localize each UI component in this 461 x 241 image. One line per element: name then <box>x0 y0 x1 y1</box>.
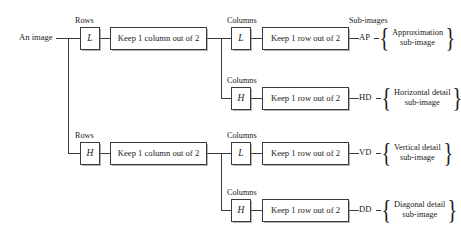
header-columns-dd: Columns <box>227 189 257 197</box>
source-label-an-image: An image <box>19 33 53 42</box>
process-box-keep-row-ap[interactable]: Keep 1 row out of 2 <box>262 27 349 50</box>
process-box-keep-column-top-label: Keep 1 column out of 2 <box>118 34 199 43</box>
header-columns-hd: Columns <box>227 77 257 85</box>
filter-box-columns-vd-label: L <box>238 149 243 159</box>
sub-image-caption-dd-line2: sub-image <box>402 210 437 219</box>
output-code-ap: AP <box>359 33 370 42</box>
sub-image-caption-ap-line2: sub-image <box>400 38 435 47</box>
filter-box-columns-ap[interactable]: L <box>231 27 251 50</box>
output-code-dd: DD <box>359 205 371 214</box>
sub-image-caption-hd: Horizontal detail sub-image <box>393 88 452 109</box>
filter-box-columns-ap-label: L <box>238 34 243 44</box>
sub-image-group-hd: { Horizontal detail sub-image } <box>380 85 461 111</box>
header-columns-vd: Columns <box>227 132 257 140</box>
sub-image-caption-vd: Vertical detail sub-image <box>393 143 442 164</box>
filter-box-columns-vd[interactable]: L <box>231 142 251 165</box>
filter-box-rows-low[interactable]: L <box>80 27 100 50</box>
sub-image-caption-hd-line2: sub-image <box>405 98 440 107</box>
filter-box-columns-dd-label: H <box>238 206 245 216</box>
process-box-keep-row-vd-label: Keep 1 row out of 2 <box>271 149 340 158</box>
filter-box-columns-hd-label: H <box>238 94 245 104</box>
process-box-keep-row-hd[interactable]: Keep 1 row out of 2 <box>262 87 349 110</box>
sub-image-caption-ap-line1: Approximation <box>392 28 443 37</box>
output-code-vd: VD <box>359 148 371 157</box>
filter-box-columns-hd[interactable]: H <box>231 87 251 110</box>
process-box-keep-row-vd[interactable]: Keep 1 row out of 2 <box>262 142 349 165</box>
header-rows-bottom: Rows <box>75 132 94 140</box>
sub-image-group-ap: { Approximation sub-image } <box>378 25 457 51</box>
sub-image-caption-dd-line1: Diagonal detail <box>394 200 445 209</box>
sub-image-caption-dd: Diagonal detail sub-image <box>393 200 446 221</box>
sub-image-caption-vd-line2: sub-image <box>400 153 435 162</box>
filter-box-rows-low-label: L <box>87 34 92 44</box>
sub-image-group-dd: { Diagonal detail sub-image } <box>380 197 459 223</box>
process-box-keep-row-dd[interactable]: Keep 1 row out of 2 <box>262 199 349 222</box>
sub-image-group-vd: { Vertical detail sub-image } <box>380 140 455 166</box>
header-rows-top: Rows <box>75 17 94 25</box>
filter-box-rows-high[interactable]: H <box>80 142 100 165</box>
wavelet-decomposition-diagram: Rows Rows Columns Columns Columns Column… <box>0 0 461 241</box>
sub-image-caption-ap: Approximation sub-image <box>391 28 444 49</box>
process-box-keep-column-bottom[interactable]: Keep 1 column out of 2 <box>110 142 207 165</box>
filter-box-rows-high-label: H <box>87 149 94 159</box>
output-code-hd: HD <box>359 93 371 102</box>
sub-image-caption-vd-line1: Vertical detail <box>394 143 441 152</box>
process-box-keep-row-dd-label: Keep 1 row out of 2 <box>271 206 340 215</box>
process-box-keep-row-ap-label: Keep 1 row out of 2 <box>271 34 340 43</box>
sub-image-caption-hd-line1: Horizontal detail <box>394 88 451 97</box>
process-box-keep-column-top[interactable]: Keep 1 column out of 2 <box>110 27 207 50</box>
process-box-keep-column-bottom-label: Keep 1 column out of 2 <box>118 149 199 158</box>
process-box-keep-row-hd-label: Keep 1 row out of 2 <box>271 94 340 103</box>
filter-box-columns-dd[interactable]: H <box>231 199 251 222</box>
header-columns-ap: Columns <box>227 17 257 25</box>
